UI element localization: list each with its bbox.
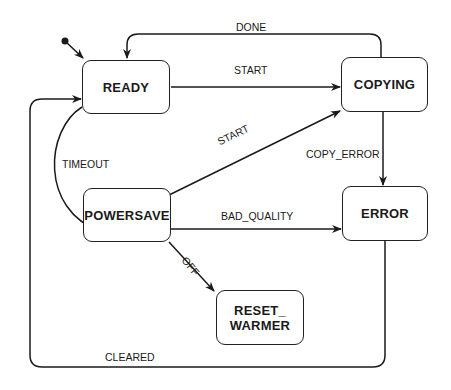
state-copying-label: COPYING (354, 77, 415, 92)
label-cleared: CLEARED (105, 351, 155, 363)
label-done: DONE (236, 21, 266, 33)
state-powersave[interactable]: POWERSAVE (83, 188, 171, 242)
label-start-ready-copying: START (234, 64, 267, 76)
state-reset-warmer-label-1: RESET_ (234, 303, 286, 318)
label-timeout: TIMEOUT (62, 158, 109, 170)
label-bad-quality: BAD_QUALITY (221, 210, 293, 222)
label-copy-error: COPY_ERROR (306, 148, 380, 160)
edge-initial-ready (66, 42, 83, 58)
edge-done (127, 34, 381, 58)
state-copying[interactable]: COPYING (341, 57, 428, 112)
state-powersave-label: POWERSAVE (84, 208, 169, 223)
state-reset-warmer[interactable]: RESET_ WARMER (216, 290, 304, 345)
state-ready-label: READY (103, 80, 150, 95)
state-reset-warmer-label-2: WARMER (230, 318, 290, 333)
state-error[interactable]: ERROR (342, 186, 428, 241)
state-ready[interactable]: READY (82, 60, 170, 114)
state-error-label: ERROR (361, 206, 409, 221)
